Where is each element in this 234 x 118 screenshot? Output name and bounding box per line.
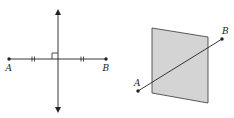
right-angle-marker	[52, 53, 58, 59]
label-b-left: B	[102, 63, 110, 73]
point-b-right	[220, 37, 223, 40]
label-a-left: A	[5, 63, 13, 73]
diagram-svg: A B A B	[0, 0, 234, 118]
label-b-right: B	[221, 26, 229, 36]
point-a-right	[136, 89, 139, 92]
geometry-figure: A B A B	[0, 0, 234, 118]
point-a-left	[7, 57, 10, 60]
perpendicular-bisector-figure: A B	[5, 12, 110, 110]
perpendicular-plane-figure: A B	[133, 26, 229, 103]
point-b-left	[104, 57, 107, 60]
label-a-right: A	[133, 78, 141, 88]
